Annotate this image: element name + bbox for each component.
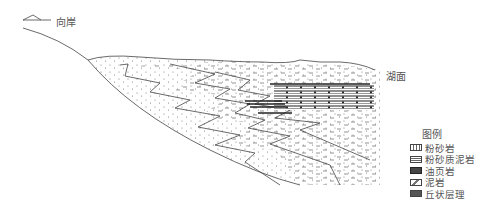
oil-shale-main — [274, 84, 374, 110]
silty-mudstone-swatch-icon — [410, 156, 422, 163]
legend-title: 图例 — [422, 126, 475, 141]
label-opposite-shore: 向岸 — [56, 14, 76, 29]
legend-item-hummocky-bedding: 丘状层理 — [410, 188, 475, 200]
mudstone-swatch-icon — [410, 179, 422, 186]
opposite-shore-marker — [23, 15, 51, 20]
legend: 图例 粉砂岩 粉砂质泥岩 油页岩 泥岩 丘状层理 — [410, 126, 475, 200]
hummocky-bedding-swatch-icon — [410, 190, 422, 197]
siltstone-swatch-icon — [410, 144, 422, 151]
oil-shale-swatch-icon — [410, 167, 422, 174]
label-lake-surface: 湖面 — [386, 68, 406, 83]
